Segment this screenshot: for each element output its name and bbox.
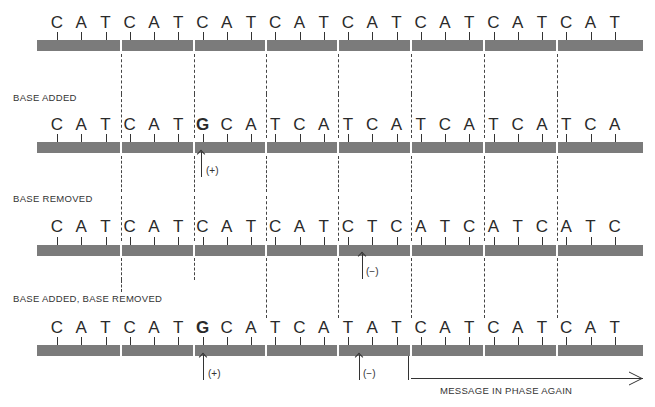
codon-separator bbox=[410, 40, 412, 51]
base-letter: T bbox=[340, 116, 356, 134]
dna-strand bbox=[37, 40, 643, 51]
base-tick bbox=[81, 337, 82, 345]
base-tick bbox=[57, 337, 58, 345]
base-tick bbox=[227, 134, 228, 142]
base-letter: A bbox=[486, 218, 502, 236]
base-tick bbox=[566, 237, 567, 245]
reading-frame-guide bbox=[411, 94, 412, 138]
base-letter: G bbox=[195, 116, 211, 134]
base-tick bbox=[57, 32, 58, 40]
base-letter: T bbox=[170, 116, 186, 134]
reading-frame-guide bbox=[557, 156, 558, 192]
base-letter: C bbox=[486, 319, 502, 337]
base-letter: C bbox=[583, 116, 599, 134]
base-letter: A bbox=[73, 116, 89, 134]
base-tick bbox=[518, 337, 519, 345]
base-letter: C bbox=[219, 116, 235, 134]
base-tick bbox=[203, 134, 204, 142]
base-tick bbox=[518, 237, 519, 245]
base-letter: A bbox=[534, 116, 550, 134]
base-tick bbox=[372, 337, 373, 345]
base-tick bbox=[300, 134, 301, 142]
base-letter: A bbox=[583, 14, 599, 32]
base-tick bbox=[348, 337, 349, 345]
base-tick bbox=[178, 237, 179, 245]
dna-strand bbox=[37, 345, 643, 356]
base-tick bbox=[494, 134, 495, 142]
insertion-marker: (+) bbox=[206, 165, 219, 176]
reading-frame-guide bbox=[411, 196, 412, 241]
base-tick bbox=[275, 337, 276, 345]
base-letter: A bbox=[607, 116, 623, 134]
codon-separator bbox=[337, 345, 339, 356]
base-tick bbox=[178, 337, 179, 345]
reading-frame-guide bbox=[338, 156, 339, 192]
base-tick bbox=[251, 32, 252, 40]
codon-separator bbox=[265, 245, 267, 256]
reading-frame-guide bbox=[121, 94, 122, 138]
codon-separator bbox=[265, 345, 267, 356]
base-letter: A bbox=[583, 319, 599, 337]
base-letter: T bbox=[389, 14, 405, 32]
base-tick bbox=[372, 134, 373, 142]
base-letter: C bbox=[340, 218, 356, 236]
base-letter: A bbox=[364, 319, 380, 337]
base-tick bbox=[203, 337, 204, 345]
base-letter: C bbox=[195, 14, 211, 32]
base-tick bbox=[518, 32, 519, 40]
base-tick bbox=[445, 337, 446, 345]
reading-frame-guide bbox=[557, 54, 558, 94]
insertion-arrow-icon bbox=[201, 152, 202, 177]
base-letter: T bbox=[583, 218, 599, 236]
reading-frame-guide bbox=[121, 156, 122, 192]
base-letter: C bbox=[49, 14, 65, 32]
base-letter: T bbox=[316, 14, 332, 32]
base-letter: C bbox=[292, 319, 308, 337]
base-letter: T bbox=[267, 116, 283, 134]
base-letter: C bbox=[292, 116, 308, 134]
codon-separator bbox=[193, 142, 195, 153]
base-tick bbox=[348, 237, 349, 245]
base-letter: A bbox=[413, 218, 429, 236]
reading-frame-guide bbox=[194, 258, 195, 280]
reading-frame-guide bbox=[338, 54, 339, 94]
reading-frame-guide bbox=[411, 156, 412, 192]
reading-frame-guide bbox=[484, 54, 485, 94]
codon-separator bbox=[120, 40, 122, 51]
base-tick bbox=[494, 337, 495, 345]
base-letter: C bbox=[534, 218, 550, 236]
base-letter: A bbox=[364, 14, 380, 32]
base-letter: C bbox=[340, 14, 356, 32]
base-letter: A bbox=[510, 14, 526, 32]
reading-frame-guide bbox=[194, 94, 195, 138]
base-letter: A bbox=[316, 319, 332, 337]
base-tick bbox=[397, 337, 398, 345]
base-letter: T bbox=[243, 14, 259, 32]
base-letter: C bbox=[267, 218, 283, 236]
base-tick bbox=[81, 32, 82, 40]
arrow-right-icon bbox=[628, 371, 644, 386]
base-tick bbox=[421, 337, 422, 345]
base-letter: A bbox=[389, 116, 405, 134]
base-letter: A bbox=[243, 319, 259, 337]
dna-strand bbox=[37, 142, 643, 153]
base-tick bbox=[615, 134, 616, 142]
base-letter: C bbox=[413, 14, 429, 32]
deletion-arrow-icon bbox=[362, 254, 363, 279]
base-tick bbox=[421, 237, 422, 245]
dna-strand bbox=[37, 245, 643, 256]
codon-separator bbox=[483, 142, 485, 153]
base-letter: T bbox=[389, 319, 405, 337]
reading-frame-guide bbox=[557, 258, 558, 318]
reading-frame-guide bbox=[266, 94, 267, 138]
base-letter: A bbox=[510, 319, 526, 337]
base-tick bbox=[591, 337, 592, 345]
reading-frame-guide bbox=[484, 156, 485, 192]
codon-separator bbox=[410, 142, 412, 153]
base-letter: A bbox=[73, 319, 89, 337]
base-tick bbox=[518, 134, 519, 142]
base-tick bbox=[154, 134, 155, 142]
base-letter: A bbox=[146, 14, 162, 32]
base-letter: A bbox=[292, 218, 308, 236]
base-tick bbox=[106, 134, 107, 142]
